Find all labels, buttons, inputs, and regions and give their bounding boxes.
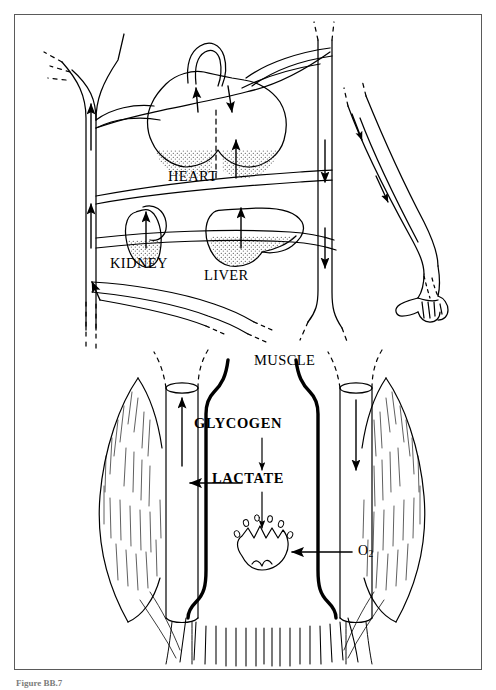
figure-caption: Figure BB.7 (16, 678, 62, 688)
label-oxygen: O2 (358, 543, 374, 559)
oxygen-symbol: O (358, 543, 369, 558)
hand (396, 296, 448, 322)
hand-dashed-vessel (424, 276, 438, 298)
mitochondrion-flame (238, 526, 289, 570)
arm-limb (348, 96, 440, 298)
tendon-striations (180, 618, 358, 666)
label-lactate: LACTATE (212, 470, 284, 487)
figure-root: HEART KIDNEY LIVER MUSCLE GLYCOGEN LACTA… (0, 0, 496, 690)
label-glycogen: GLYCOGEN (194, 415, 282, 432)
right-vessel-dashed-top (314, 22, 334, 40)
label-kidney: KIDNEY (110, 255, 168, 272)
distal-connective-strands (140, 592, 384, 658)
muscle-belly-left (99, 378, 162, 622)
muscle-striations-left (104, 392, 161, 590)
upper-panel-art (44, 22, 448, 350)
lower-vessel-branches (92, 282, 254, 334)
lower-vessel-tails (166, 622, 372, 664)
lower-panel-art (99, 350, 425, 666)
figure-artwork (0, 0, 496, 690)
label-heart: HEART (168, 168, 217, 185)
label-liver: LIVER (204, 267, 249, 284)
label-muscle: MUSCLE (254, 352, 315, 369)
vena-cava-dashed-bottom (86, 302, 96, 350)
right-great-vessels (308, 40, 342, 328)
heart-organ (96, 43, 332, 182)
oxygen-subscript: 2 (369, 549, 374, 559)
muscle-cell-outline (188, 360, 336, 618)
arm-dashed-top (344, 80, 366, 106)
lower-branch-dashed (206, 322, 272, 342)
